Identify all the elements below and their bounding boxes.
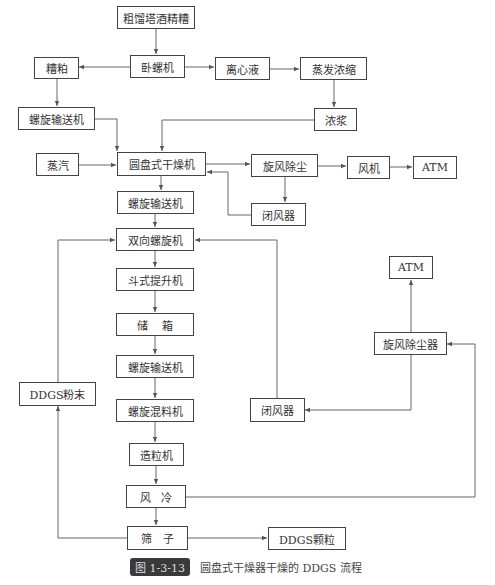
node-screen: 筛 子 — [127, 526, 188, 550]
node-syrup: 浓浆 — [314, 108, 357, 131]
node-bucket-elevator: 斗式提升机 — [116, 268, 194, 291]
node-air-cooling: 风 冷 — [126, 485, 186, 508]
node-screw-conveyor-3: 螺旋输送机 — [116, 355, 194, 378]
node-ddgs-pellets: DDGS颗粒 — [268, 527, 346, 550]
figure-caption: 图 1-3-13 圆盘式干燥器干燥的 DDGS 流程 — [130, 558, 362, 576]
node-cyclone-2: 旋风除尘器 — [374, 332, 447, 355]
node-storage-bin: 储 箱 — [116, 313, 194, 336]
node-screw-mixer: 螺旋混料机 — [116, 399, 194, 422]
node-pelletizer: 造粒机 — [129, 443, 184, 466]
node-airlock-1: 闭风器 — [251, 203, 306, 226]
flow-connectors — [0, 0, 495, 585]
node-screw-conveyor-1: 螺旋输送机 — [18, 107, 95, 130]
figure-title: 圆盘式干燥器干燥的 DDGS 流程 — [200, 559, 362, 575]
node-disc-dryer: 圆盘式干燥机 — [117, 152, 206, 176]
node-screw-conveyor-2: 螺旋输送机 — [117, 191, 194, 214]
node-centrate: 离心液 — [215, 57, 270, 80]
node-decanter: 卧螺机 — [130, 55, 185, 78]
node-bidirectional-screw: 双向螺旋机 — [116, 228, 194, 251]
node-evaporator: 蒸发浓缩 — [300, 57, 367, 80]
node-steam: 蒸汽 — [36, 153, 79, 176]
node-fan: 风机 — [347, 156, 390, 179]
figure-number: 图 1-3-13 — [130, 558, 190, 576]
node-ddgs-powder: DDGS粉末 — [19, 382, 96, 406]
node-atm-1: ATM — [413, 156, 457, 179]
node-wet-grains: 糟粕 — [34, 57, 79, 79]
node-stillage: 粗馏塔酒精糟 — [117, 6, 195, 29]
node-airlock-2: 闭风器 — [250, 398, 305, 422]
node-atm-2: ATM — [389, 256, 433, 279]
node-cyclone-1: 旋风除尘 — [251, 154, 318, 177]
